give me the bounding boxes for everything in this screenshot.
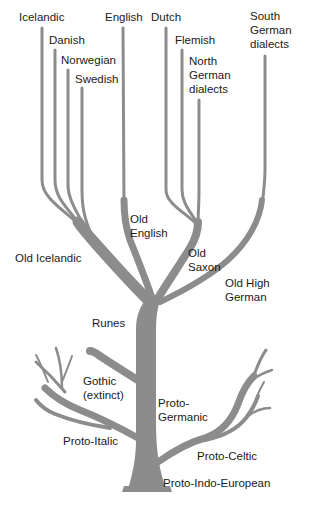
label-south-german-line2: German bbox=[250, 23, 292, 37]
label-south-german-dialects: South German dialects bbox=[250, 9, 292, 51]
leaf-norwegian bbox=[68, 70, 90, 236]
leaf-english bbox=[123, 28, 124, 205]
label-swedish: Swedish bbox=[75, 72, 118, 86]
label-proto-germanic: Proto- Germanic bbox=[158, 396, 208, 424]
label-north-german-line1: North bbox=[189, 54, 231, 68]
label-proto-germanic-line2: Germanic bbox=[158, 410, 208, 424]
twig-celtic-4 bbox=[256, 382, 264, 400]
label-old-saxon-line1: Old bbox=[188, 246, 221, 260]
label-english: English bbox=[105, 10, 143, 24]
label-old-english: Old English bbox=[130, 212, 168, 240]
label-old-high-german-line2: German bbox=[225, 290, 270, 304]
leaf-north-german bbox=[198, 100, 199, 226]
label-old-high-german-line1: Old High bbox=[225, 276, 270, 290]
label-proto-italic: Proto-Italic bbox=[63, 434, 118, 448]
label-gothic-line1: Gothic bbox=[83, 374, 124, 388]
label-runes: Runes bbox=[92, 316, 125, 330]
label-dutch: Dutch bbox=[151, 10, 181, 24]
leaf-south-german bbox=[262, 56, 265, 205]
label-gothic-line2: (extinct) bbox=[83, 388, 124, 402]
label-north-german-dialects: North German dialects bbox=[189, 54, 231, 96]
label-old-saxon: Old Saxon bbox=[188, 246, 221, 274]
label-gothic: Gothic (extinct) bbox=[83, 374, 124, 402]
label-flemish: Flemish bbox=[175, 33, 215, 47]
twig-italic-3 bbox=[62, 356, 72, 382]
twig-italic-4 bbox=[36, 355, 48, 382]
label-proto-germanic-line1: Proto- bbox=[158, 396, 208, 410]
label-norwegian: Norwegian bbox=[61, 53, 116, 67]
leaf-swedish bbox=[82, 88, 92, 236]
label-old-english-line1: Old bbox=[130, 212, 168, 226]
label-old-icelandic: Old Icelandic bbox=[15, 251, 81, 265]
label-south-german-line3: dialects bbox=[250, 37, 292, 51]
label-icelandic: Icelandic bbox=[19, 10, 64, 24]
label-old-english-line2: English bbox=[130, 226, 168, 240]
label-proto-celtic: Proto-Celtic bbox=[197, 449, 257, 463]
label-north-german-line3: dialects bbox=[189, 82, 231, 96]
label-north-german-line2: German bbox=[189, 68, 231, 82]
label-south-german-line1: South bbox=[250, 9, 292, 23]
label-proto-indo-european: Proto-Indo-European bbox=[163, 476, 270, 490]
label-danish: Danish bbox=[49, 33, 85, 47]
label-old-saxon-line2: Saxon bbox=[188, 260, 221, 274]
label-old-high-german: Old High German bbox=[225, 276, 270, 304]
